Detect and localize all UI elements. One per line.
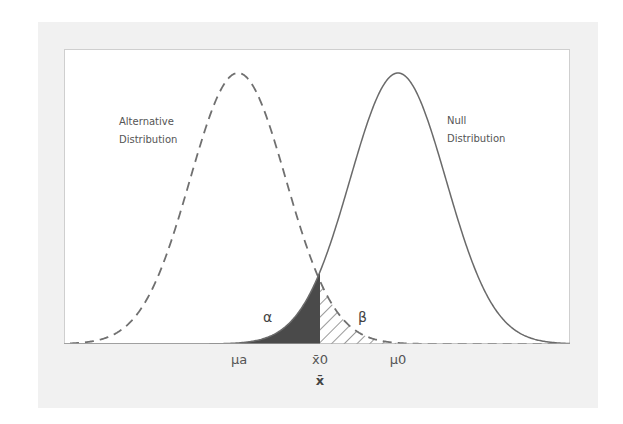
tick-mu-a: μa bbox=[231, 352, 247, 367]
beta-region bbox=[320, 281, 420, 344]
tick-mu-0: μ0 bbox=[390, 352, 407, 367]
x-axis-label: x̄ bbox=[316, 373, 324, 388]
beta-symbol: β bbox=[358, 309, 367, 325]
null-label-line1: Null bbox=[447, 112, 505, 130]
alpha-region bbox=[180, 272, 320, 344]
alternative-label: Alternative Distribution bbox=[119, 113, 177, 149]
alternative-label-line1: Alternative bbox=[119, 113, 177, 131]
alpha-symbol: α bbox=[263, 309, 272, 325]
tick-x0: x̄0 bbox=[312, 352, 328, 367]
null-label-line2: Distribution bbox=[447, 130, 505, 148]
null-label: Null Distribution bbox=[447, 112, 505, 148]
alternative-label-line2: Distribution bbox=[119, 131, 177, 149]
